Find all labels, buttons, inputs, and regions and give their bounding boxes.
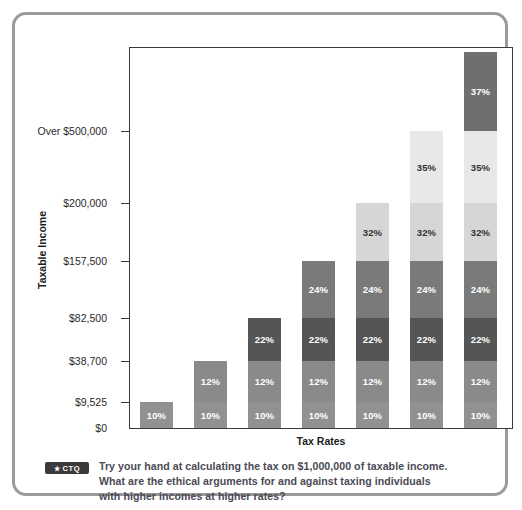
caption-text: Try your hand at calculating the tax on … — [99, 459, 499, 504]
bar-segment-label: 32% — [417, 227, 436, 238]
bar-segment-label: 10% — [471, 410, 490, 421]
bar-segment: 37% — [464, 52, 497, 131]
bar-segment: 24% — [356, 261, 389, 318]
bar-segment-label: 22% — [417, 334, 436, 345]
bar-segment-label: 12% — [201, 376, 220, 387]
caption-line-3: with higher incomes at higher rates? — [99, 489, 499, 504]
bar-segment-label: 12% — [309, 376, 328, 387]
bar: 10%12%22%24%32%35% — [410, 131, 443, 428]
bar-segment: 12% — [248, 361, 281, 402]
bar-segment: 12% — [464, 361, 497, 402]
bar-segment-label: 37% — [471, 86, 490, 97]
bar-segment: 12% — [194, 361, 227, 402]
caption-line-1: Try your hand at calculating the tax on … — [99, 459, 499, 474]
bar: 10%12%22% — [248, 318, 281, 428]
bar-segment: 24% — [302, 261, 335, 318]
bar-segment: 10% — [248, 402, 281, 428]
bar-segment-label: 12% — [471, 376, 490, 387]
bar-segment: 10% — [140, 402, 173, 428]
bar-segment: 22% — [356, 318, 389, 361]
bar-segment: 22% — [410, 318, 443, 361]
bar: 10%12% — [194, 361, 227, 428]
bar-segment-label: 32% — [471, 227, 490, 238]
bar-segment-label: 24% — [417, 284, 436, 295]
bar-segment-label: 10% — [147, 410, 166, 421]
star-icon: ★ — [54, 465, 61, 472]
bar-segment-label: 22% — [309, 334, 328, 345]
bar-segment-label: 35% — [471, 162, 490, 173]
bar-series: 10%10%12%10%12%22%10%12%22%24%10%12%22%2… — [15, 15, 505, 493]
bar-segment: 22% — [302, 318, 335, 361]
x-axis-title: Tax Rates — [129, 435, 513, 447]
bar-segment-label: 10% — [309, 410, 328, 421]
bar-segment-label: 22% — [255, 334, 274, 345]
bar-segment: 24% — [410, 261, 443, 318]
bar-segment: 10% — [194, 402, 227, 428]
bar: 10% — [140, 402, 173, 428]
bar-segment: 12% — [302, 361, 335, 402]
bar-segment: 10% — [302, 402, 335, 428]
bar-segment: 32% — [464, 203, 497, 261]
bar-segment-label: 10% — [255, 410, 274, 421]
bar-segment: 22% — [464, 318, 497, 361]
ctq-badge: ★ CTQ — [45, 462, 89, 474]
bar-segment: 10% — [464, 402, 497, 428]
bar-segment-label: 10% — [417, 410, 436, 421]
bar-segment-label: 24% — [363, 284, 382, 295]
figure-card: Taxable Income $0$9,525$38,700$82,500$15… — [12, 12, 508, 496]
bar-segment-label: 32% — [363, 227, 382, 238]
bar-segment: 10% — [356, 402, 389, 428]
bar-segment: 35% — [410, 131, 443, 203]
bar-segment-label: 10% — [201, 410, 220, 421]
bar-segment-label: 22% — [471, 334, 490, 345]
bar-segment: 10% — [410, 402, 443, 428]
bar-segment: 35% — [464, 131, 497, 203]
bar-segment-label: 12% — [255, 376, 274, 387]
bar-segment: 22% — [248, 318, 281, 361]
bar-segment-label: 35% — [417, 162, 436, 173]
bar: 10%12%22%24%32%35%37% — [464, 52, 497, 428]
bar-segment-label: 10% — [363, 410, 382, 421]
bar: 10%12%22%24% — [302, 261, 335, 428]
bar-segment-label: 12% — [417, 376, 436, 387]
figure-root: Taxable Income $0$9,525$38,700$82,500$15… — [0, 0, 522, 510]
bar-segment: 32% — [356, 203, 389, 261]
bar-segment: 12% — [410, 361, 443, 402]
bar-segment: 24% — [464, 261, 497, 318]
bar-segment: 32% — [410, 203, 443, 261]
caption-line-2: What are the ethical arguments for and a… — [99, 474, 499, 489]
ctq-badge-label: CTQ — [62, 464, 80, 473]
bar-segment-label: 12% — [363, 376, 382, 387]
bar-segment-label: 24% — [309, 284, 328, 295]
bar-segment: 12% — [356, 361, 389, 402]
bar-segment-label: 22% — [363, 334, 382, 345]
bar-segment-label: 24% — [471, 284, 490, 295]
bar: 10%12%22%24%32% — [356, 203, 389, 428]
